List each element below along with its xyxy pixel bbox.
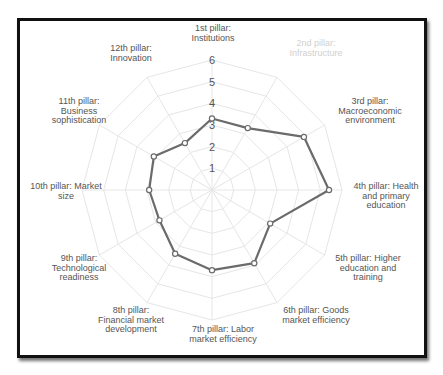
- radar-chart: 123456 1st pillar:Institutions2nd pillar…: [0, 0, 443, 375]
- grid-spoke: [212, 190, 277, 303]
- axis-label: 2nd pillar:Infrastructure: [289, 38, 342, 58]
- axis-label: 9th pillar:Technologicalreadiness: [52, 253, 107, 282]
- data-point: [182, 140, 187, 145]
- data-point: [252, 261, 257, 266]
- radial-tick-label: 1: [209, 162, 215, 174]
- axis-label: 6th pillar: Goodsmarket efficiency: [282, 305, 350, 325]
- data-point: [301, 134, 306, 139]
- grid-spoke: [147, 190, 212, 303]
- data-point: [268, 221, 273, 226]
- radial-tick-label: 4: [209, 97, 215, 109]
- data-point: [209, 116, 214, 121]
- axis-label: 12th pillar:Innovation: [110, 43, 152, 63]
- data-point: [326, 187, 331, 192]
- grid-spoke: [212, 77, 277, 190]
- data-point: [209, 268, 214, 273]
- data-point: [151, 154, 156, 159]
- grid-spoke: [147, 77, 212, 190]
- radial-tick-label: 5: [209, 76, 215, 88]
- radial-tick-label: 2: [209, 141, 215, 153]
- axis-label: 7th pillar: Labormarket efficiency: [189, 324, 257, 344]
- data-point: [173, 251, 178, 256]
- data-point: [245, 125, 250, 130]
- data-point: [147, 187, 152, 192]
- axis-label: 1st pillar:Institutions: [191, 23, 235, 43]
- radial-tick-label: 6: [209, 54, 215, 66]
- axis-label: 4th pillar: Healthand primaryeducation: [353, 181, 418, 210]
- data-point: [157, 218, 162, 223]
- axis-label: 11th pillar:Businesssophistication: [52, 96, 107, 125]
- axis-label: 8th pillar:Financial marketdevelopment: [98, 305, 165, 334]
- axis-label: 3rd pillar:Macroeconomicenvironment: [338, 96, 402, 125]
- grid-spoke: [212, 125, 325, 190]
- grid-spoke: [99, 190, 212, 255]
- axis-label: 5th pillar: Highereducation andtraining: [335, 253, 401, 282]
- axis-label: 10th pillar: Marketsize: [30, 181, 102, 201]
